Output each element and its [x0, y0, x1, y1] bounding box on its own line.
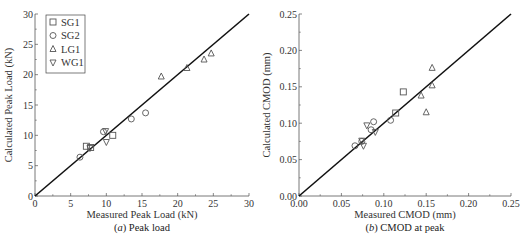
series-sg2 [77, 110, 149, 160]
y-tick-label: 15 [23, 100, 33, 111]
series-lg1 [158, 50, 214, 79]
x-tick-label: 20 [173, 198, 183, 209]
legend-item-sg2: SG2 [61, 30, 80, 41]
x-tick-label: 0.05 [333, 198, 351, 209]
legend: SG1SG2LG1WG1 [46, 15, 85, 73]
x-tick-label: 0.15 [417, 198, 435, 209]
y-axis-title: Calculated Peak Load (kN) [3, 47, 15, 162]
y-tick-label: 0.00 [280, 191, 298, 202]
x-axis-title: Measured Peak Load (kN) [86, 209, 198, 221]
panel-caption: (a) Peak load [114, 222, 171, 234]
y-tick-label: 20 [23, 69, 33, 80]
y-tick-label: 25 [23, 39, 33, 50]
reference-line [299, 14, 511, 196]
x-tick-label: 0.20 [460, 198, 478, 209]
x-tick-label: 0.25 [502, 198, 520, 209]
y-tick-label: 0.25 [280, 9, 298, 20]
y-axis-title: Calculated CMOD (mm) [261, 52, 273, 157]
x-tick-label: 30 [244, 198, 254, 209]
y-tick-label: 0.20 [280, 45, 298, 56]
x-axis-title: Measured CMOD (mm) [354, 209, 456, 221]
y-tick-label: 0.05 [280, 154, 298, 165]
y-tick-label: 10 [23, 130, 33, 141]
x-tick-label: 10 [101, 198, 111, 209]
legend-item-wg1: WG1 [61, 57, 84, 68]
series-sg1 [393, 89, 407, 116]
y-tick-label: 0.10 [280, 118, 298, 129]
legend-item-lg1: LG1 [61, 44, 80, 55]
y-tick-label: 5 [28, 160, 33, 171]
y-tick-label: 0 [28, 191, 33, 202]
legend-item-sg1: SG1 [61, 17, 80, 28]
panel-caption: (b) CMOD at peak [365, 222, 445, 234]
y-tick-label: 0.15 [280, 81, 298, 92]
chart-panel-a: 051015202530051015202530Measured Peak Lo… [3, 9, 254, 235]
x-tick-label: 25 [208, 198, 218, 209]
y-tick-label: 30 [23, 9, 33, 20]
x-tick-label: 15 [137, 198, 147, 209]
x-tick-label: 5 [68, 198, 73, 209]
series-lg1 [418, 64, 435, 114]
chart-panel-b: 0.000.050.100.150.200.250.000.050.100.15… [261, 9, 520, 235]
x-tick-label: 0 [33, 198, 38, 209]
x-tick-label: 0.10 [375, 198, 393, 209]
figure: 051015202530051015202530Measured Peak Lo… [0, 0, 526, 241]
